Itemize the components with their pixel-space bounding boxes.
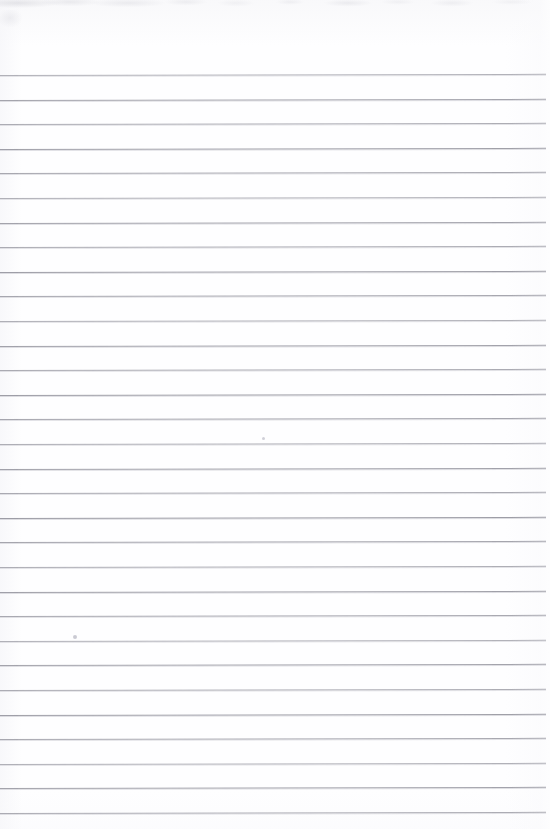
scanned-page bbox=[0, 0, 550, 829]
paper-surface bbox=[0, 0, 550, 829]
